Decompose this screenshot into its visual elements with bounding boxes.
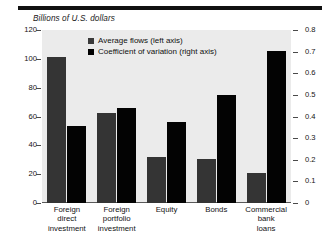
- bar-average-flows: [97, 113, 116, 203]
- y-axis-right-tick-label: 0.4: [305, 112, 316, 121]
- bar-average-flows: [247, 173, 266, 203]
- chart-axis-title: Billions of U.S. dollars: [33, 14, 115, 23]
- y-axis-left-tick-mark: [36, 203, 41, 204]
- bar-group: [197, 30, 236, 203]
- y-axis-left-tick-mark: [36, 59, 41, 60]
- chart-figure: Billions of U.S. dollars 020406080100120…: [0, 0, 332, 249]
- y-axis-right-tick-label: 0: [305, 198, 309, 207]
- y-axis-left-tick-mark: [36, 88, 41, 89]
- bar-group: [47, 30, 86, 203]
- y-axis-right-tick-label: 0.3: [305, 133, 316, 142]
- bar-coefficient-of-variation: [167, 122, 186, 203]
- bar-average-flows: [197, 159, 216, 203]
- top-rule-divider: [18, 6, 322, 10]
- y-axis-right-tick-label: 0.7: [305, 47, 316, 56]
- bar-coefficient-of-variation: [217, 95, 236, 203]
- bar-group: [97, 30, 136, 203]
- bar-average-flows: [47, 57, 66, 203]
- y-axis-right-tick-mark: [293, 52, 298, 53]
- y-axis-left-tick-mark: [36, 174, 41, 175]
- y-axis-right-tick-mark: [293, 160, 298, 161]
- y-axis-left-tick-mark: [36, 117, 41, 118]
- x-axis-category-label: Commercialbankloans: [235, 205, 297, 233]
- y-axis-right-tick-label: 0.6: [305, 68, 316, 77]
- y-axis-right-tick-label: 0.2: [305, 155, 316, 164]
- x-axis-category-labels: ForeigndirectinvestmentForeignportfolioi…: [42, 205, 291, 249]
- bar-group: [147, 30, 186, 203]
- y-axis-left-tick-mark: [36, 30, 41, 31]
- y-axis-right-tick-label: 0.5: [305, 90, 316, 99]
- y-axis-right-tick-label: 0.1: [305, 176, 316, 185]
- y-axis-right-tick-mark: [293, 203, 298, 204]
- y-axis-right-tick-mark: [293, 117, 298, 118]
- y-axis-right-tick-mark: [293, 30, 298, 31]
- y-axis-right-tick-mark: [293, 95, 298, 96]
- y-axis-right-tick-mark: [293, 138, 298, 139]
- y-axis-right-tick-mark: [293, 73, 298, 74]
- y-axis-left-tick-mark: [36, 145, 41, 146]
- bars-layer: [42, 30, 291, 203]
- bar-coefficient-of-variation: [67, 126, 86, 203]
- bar-coefficient-of-variation: [117, 108, 136, 203]
- bar-coefficient-of-variation: [267, 51, 286, 203]
- bar-group: [247, 30, 286, 203]
- bar-average-flows: [147, 157, 166, 203]
- y-axis-right-tick-mark: [293, 181, 298, 182]
- y-axis-right-tick-label: 0.8: [305, 25, 316, 34]
